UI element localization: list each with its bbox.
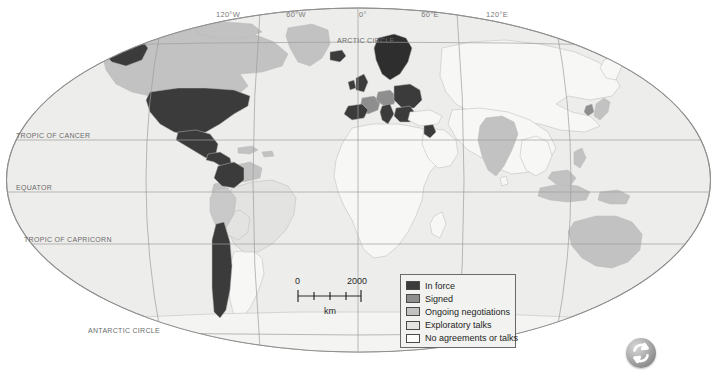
scale-bar-graphic	[295, 287, 381, 303]
scale-bar-numbers: 0 2000	[295, 276, 381, 287]
label-antarctic-circle: ANTARCTIC CIRCLE	[88, 327, 160, 334]
legend-label-ongoing-negotiations: Ongoing negotiations	[425, 307, 510, 317]
legend-swatch-in-force	[406, 281, 420, 290]
map-legend: In force Signed Ongoing negotiations Exp…	[400, 274, 516, 348]
scale-bar: 0 2000 km	[295, 276, 381, 324]
legend-item-exploratory-talks[interactable]: Exploratory talks	[406, 319, 510, 332]
legend-swatch-signed	[406, 294, 420, 303]
legend-item-signed[interactable]: Signed	[406, 292, 510, 305]
label-equator: EQUATOR	[16, 184, 52, 192]
label-arctic-circle: ARCTIC CIRCLE	[337, 37, 395, 44]
refresh-button[interactable]	[626, 338, 656, 368]
legend-item-in-force[interactable]: In force	[406, 279, 510, 292]
label-lon-0: 0°	[359, 10, 367, 19]
legend-label-exploratory-talks: Exploratory talks	[425, 320, 492, 330]
legend-item-ongoing-negotiations[interactable]: Ongoing negotiations	[406, 305, 510, 318]
legend-swatch-exploratory-talks	[406, 321, 420, 330]
legend-item-no-agreements-or-talks[interactable]: No agreements or talks	[406, 332, 510, 345]
scale-bar-min-label: 0	[295, 276, 300, 286]
label-lon-60e: 60°E	[421, 10, 439, 19]
scale-bar-max-label: 2000	[347, 276, 367, 286]
label-lon-120e: 120°E	[486, 10, 508, 19]
legend-swatch-ongoing-negotiations	[406, 307, 420, 316]
scale-bar-unit-label: km	[324, 306, 336, 316]
refresh-icon	[626, 338, 656, 368]
region-hispaniola	[262, 151, 274, 157]
legend-label-in-force: In force	[425, 281, 455, 291]
label-tropic-of-capricorn: TROPIC OF CAPRICORN	[24, 236, 112, 243]
legend-label-signed: Signed	[425, 294, 453, 304]
label-lon-60w: 60°W	[286, 10, 306, 19]
legend-label-no-agreements-or-talks: No agreements or talks	[425, 333, 518, 343]
label-tropic-of-cancer: TROPIC OF CANCER	[16, 132, 90, 139]
region-new-zealand-south	[648, 280, 662, 296]
label-lon-120w: 120°W	[216, 10, 241, 19]
world-map-figure: ARCTIC CIRCLE TROPIC OF CANCER EQUATOR T…	[0, 0, 717, 377]
legend-swatch-no-agreements-or-talks	[406, 334, 420, 343]
